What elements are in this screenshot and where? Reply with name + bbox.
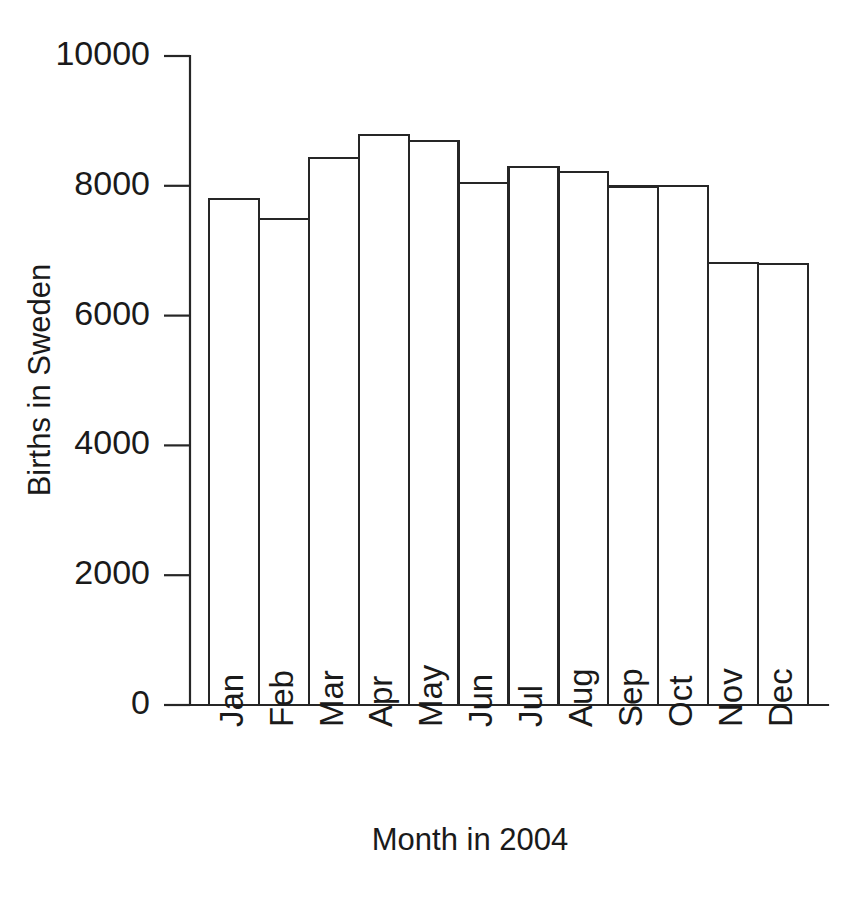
bar — [758, 264, 808, 705]
bar — [209, 199, 259, 705]
x-axis-tick-label: May — [412, 664, 449, 727]
x-axis-tick-label: Sep — [612, 668, 649, 727]
y-axis-tick-label: 0 — [131, 683, 150, 721]
x-axis-tick-label: Feb — [263, 670, 300, 727]
bar — [459, 183, 509, 705]
y-axis-group: 0200040006000800010000 Births in Sweden — [22, 34, 190, 721]
x-axis-tick-label: Apr — [362, 676, 399, 727]
y-axis-title: Births in Sweden — [22, 264, 57, 497]
x-axis-tick-label: Aug — [562, 668, 599, 727]
bar — [309, 158, 359, 705]
y-axis-tick-label: 2000 — [74, 553, 150, 591]
y-axis-tick-label: 10000 — [55, 34, 150, 72]
y-axis-tick-label: 6000 — [74, 294, 150, 332]
bar — [259, 219, 309, 705]
y-axis-ticks — [164, 56, 190, 705]
bar — [509, 167, 559, 705]
bar-series — [209, 135, 808, 705]
y-axis-tick-label: 4000 — [74, 423, 150, 461]
x-axis-title: Month in 2004 — [372, 822, 568, 857]
y-axis-tick-label: 8000 — [74, 164, 150, 202]
x-axis-tick-label: Mar — [313, 670, 350, 727]
bar — [359, 135, 409, 705]
x-axis-tick-label: Oct — [662, 676, 699, 727]
x-axis-tick-label: Jan — [213, 674, 250, 727]
x-axis-tick-label: Nov — [712, 668, 749, 727]
chart-canvas: 0200040006000800010000 Births in Sweden … — [0, 0, 855, 903]
x-axis-tick-label: Dec — [762, 668, 799, 727]
bar — [409, 141, 459, 705]
x-axis-tick-label: Jul — [512, 685, 549, 727]
x-axis-tick-label: Jun — [462, 674, 499, 727]
y-axis-tick-labels: 0200040006000800010000 — [55, 34, 150, 721]
births-in-sweden-bar-chart: 0200040006000800010000 Births in Sweden … — [0, 0, 855, 903]
bar — [708, 263, 758, 705]
bar — [558, 172, 608, 705]
bar — [658, 186, 708, 705]
bar — [608, 186, 658, 705]
